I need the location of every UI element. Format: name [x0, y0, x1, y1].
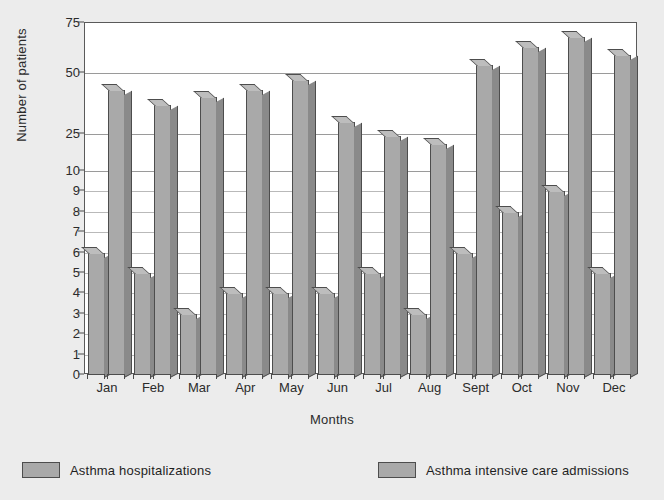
bar [476, 65, 493, 375]
x-axis-tick-mark [153, 374, 154, 379]
bar-top-face [608, 49, 631, 56]
x-axis-tick-mark [409, 374, 410, 379]
bar [292, 80, 309, 375]
y-axis-tick-label: 75 [40, 15, 80, 30]
y-axis-tick-label: 25 [40, 126, 80, 141]
x-axis-tick-label: Dec [602, 380, 625, 395]
x-axis-tick-mark [446, 374, 447, 379]
gridline [85, 73, 636, 74]
bar [134, 273, 151, 375]
x-axis-tick-mark [104, 374, 105, 379]
x-axis-tick-mark [107, 374, 108, 379]
x-axis-tick-label: Mar [188, 380, 210, 395]
bar-side-face [354, 123, 362, 378]
legend-swatch-icon [22, 462, 60, 478]
legend-entry-hospitalizations: Asthma hospitalizations [22, 462, 211, 478]
x-axis-tick-mark [150, 374, 151, 379]
bar [568, 37, 585, 375]
x-axis-tick-mark [518, 374, 519, 379]
plot-area [84, 22, 637, 374]
bar [364, 273, 381, 375]
y-axis-tick-label: 50 [40, 65, 80, 80]
bar-side-face [216, 98, 224, 378]
bar-side-face [584, 38, 592, 378]
bar-side-face [400, 137, 408, 378]
x-axis-tick-label: Apr [235, 380, 255, 395]
y-axis-tick-label: 10 [40, 163, 80, 178]
y-axis-tick-label: 9 [40, 183, 80, 198]
x-axis-tick-label: Jun [327, 380, 348, 395]
bar-top-face [469, 59, 492, 66]
bar [430, 144, 447, 375]
legend-swatch-icon [378, 462, 416, 478]
bar [456, 253, 473, 375]
bar [318, 293, 335, 375]
x-axis-tick-label: Jul [375, 380, 392, 395]
bar-side-face [492, 66, 500, 378]
legend-label: Asthma hospitalizations [70, 463, 211, 478]
x-axis-tick-mark [87, 374, 88, 379]
bar-side-face [124, 91, 132, 378]
bar [594, 273, 611, 375]
x-axis-tick-mark [133, 374, 134, 379]
bar-top-face [377, 130, 400, 137]
bar-top-face [331, 116, 354, 123]
bar [246, 90, 263, 375]
x-axis-tick-mark [455, 374, 456, 379]
x-axis-tick-mark [216, 374, 217, 379]
asthma-bar-chart: Number of patients 012345678910255075 Ja… [0, 0, 664, 500]
x-axis-tick-mark [291, 374, 292, 379]
bar [338, 122, 355, 375]
bar [384, 136, 401, 375]
x-axis-tick-mark [179, 374, 180, 379]
bar [502, 212, 519, 375]
bar [154, 105, 171, 375]
x-axis-tick-mark [426, 374, 427, 379]
legend-label: Asthma intensive care admissions [426, 463, 629, 478]
bar [614, 55, 631, 375]
x-axis-tick-mark [199, 374, 200, 379]
y-axis-tick-label: 5 [40, 265, 80, 280]
bar-side-face [630, 56, 638, 378]
bar [180, 314, 197, 375]
x-axis-tick-mark [429, 374, 430, 379]
y-axis-tick-label: 3 [40, 305, 80, 320]
bar-top-face [193, 91, 216, 98]
x-axis-tick-mark [317, 374, 318, 379]
x-axis-tick-mark [584, 374, 585, 379]
bar-side-face [262, 91, 270, 378]
x-axis-tick-mark [593, 374, 594, 379]
bar-side-face [446, 145, 454, 378]
bar [522, 47, 539, 375]
bar-side-face [170, 105, 178, 378]
bar [226, 293, 243, 375]
x-axis-tick-mark [472, 374, 473, 379]
x-axis-tick-mark [308, 374, 309, 379]
bar [548, 191, 565, 375]
bar [108, 90, 125, 375]
bar [200, 97, 217, 375]
x-axis-tick-mark [337, 374, 338, 379]
x-axis-tick-mark [124, 374, 125, 379]
y-axis-tick-label: 1 [40, 346, 80, 361]
y-axis-tick-label: 0 [40, 367, 80, 382]
x-axis-tick-mark [610, 374, 611, 379]
x-axis-tick-label: Feb [142, 380, 164, 395]
x-axis-tick-mark [613, 374, 614, 379]
y-axis-tick-label: 6 [40, 244, 80, 259]
x-axis-tick-mark [354, 374, 355, 379]
bar-top-face [516, 41, 539, 48]
y-axis-title: Number of patients [14, 5, 34, 165]
y-axis-tick-label: 2 [40, 326, 80, 341]
x-axis-tick-label: Oct [512, 380, 532, 395]
bar [410, 314, 427, 375]
x-axis-tick-mark [475, 374, 476, 379]
y-axis-tick-label: 8 [40, 203, 80, 218]
x-axis-tick-mark [567, 374, 568, 379]
x-axis-tick-mark [262, 374, 263, 379]
x-axis-tick-label: Jan [97, 380, 118, 395]
y-axis-tick-label: 4 [40, 285, 80, 300]
bar-side-face [538, 48, 546, 378]
x-axis-tick-mark [170, 374, 171, 379]
x-axis-tick-label: May [279, 380, 304, 395]
